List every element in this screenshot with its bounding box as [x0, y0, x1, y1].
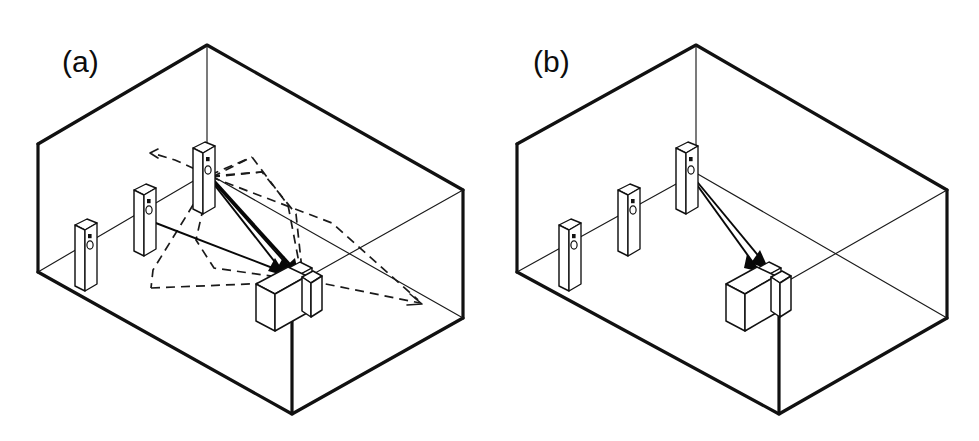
post-2-indicator-dot: [147, 199, 151, 203]
post-1-side-face: [85, 223, 97, 291]
post-3-indicator-dot: [689, 157, 693, 161]
post-3-indicator-dot: [206, 157, 210, 161]
post-3-front-face: [676, 148, 686, 214]
panel-a-post-2: [134, 184, 156, 256]
post-1-sensor-ring: [571, 241, 577, 249]
propagation-figure-svg: (a): [0, 0, 979, 441]
post-2-front-face: [618, 190, 628, 256]
panel-a-post-3-transmitter: [193, 142, 215, 214]
panel-b-label: (b): [533, 45, 570, 78]
panel-a-post-1: [75, 219, 97, 291]
receiver-module-front: [771, 277, 780, 317]
post-2-sensor-ring: [630, 206, 636, 214]
post-3-side-face: [203, 146, 215, 214]
panel-b-post-1: [559, 219, 581, 291]
post-1-indicator-dot: [572, 234, 576, 238]
panel-a-label: (a): [62, 45, 99, 78]
post-2-indicator-dot: [631, 199, 635, 203]
post-1-front-face: [75, 225, 85, 291]
receiver-module-side: [311, 276, 322, 317]
post-2-side-face: [628, 188, 640, 256]
post-1-sensor-ring: [87, 241, 93, 249]
post-1-indicator-dot: [88, 234, 92, 238]
receiver-module-front: [302, 277, 311, 317]
post-3-side-face: [686, 146, 698, 214]
post-3-sensor-ring: [688, 166, 694, 174]
figure-container: (a): [0, 0, 979, 441]
receiver-module-side: [780, 276, 791, 317]
panel-b-post-3-transmitter: [676, 142, 698, 214]
panel-b-post-2: [618, 184, 640, 256]
post-3-front-face: [193, 148, 203, 214]
post-1-front-face: [559, 225, 569, 291]
post-2-front-face: [134, 190, 144, 256]
post-1-side-face: [569, 223, 581, 291]
post-3-sensor-ring: [205, 166, 211, 174]
post-2-sensor-ring: [146, 206, 152, 214]
post-2-side-face: [144, 188, 156, 256]
